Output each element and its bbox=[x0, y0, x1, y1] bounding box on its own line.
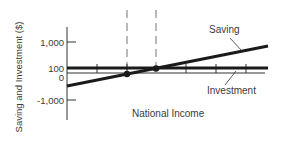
point-equilibrium bbox=[153, 65, 159, 71]
investment-label: Investment bbox=[207, 85, 256, 96]
point-saving-zero bbox=[124, 71, 130, 77]
saving-label: Saving bbox=[209, 24, 240, 35]
y-axis-label: Saving and Investment ($) bbox=[13, 22, 24, 133]
x-axis-label: National Income bbox=[132, 108, 205, 119]
y-tick-label-1000: 1,000 bbox=[40, 37, 64, 48]
y-tick-label-0: 0 bbox=[59, 72, 64, 83]
saving-leader-line bbox=[230, 38, 242, 51]
y-tick-label-neg1000: -1,000 bbox=[37, 95, 64, 106]
saving-investment-chart: Saving and Investment ($) 1,000 100 0 -1… bbox=[0, 0, 281, 142]
